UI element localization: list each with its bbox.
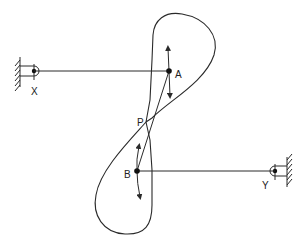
label-y: Y <box>262 180 269 191</box>
joint-a <box>166 68 172 74</box>
joint-b <box>134 168 140 174</box>
label-a: A <box>175 69 182 80</box>
label-p: P <box>137 117 144 128</box>
label-x: X <box>31 86 38 97</box>
linkage-diagram: X A P B Y <box>0 0 304 246</box>
coupler-curve <box>95 13 215 234</box>
label-b: B <box>124 169 131 180</box>
